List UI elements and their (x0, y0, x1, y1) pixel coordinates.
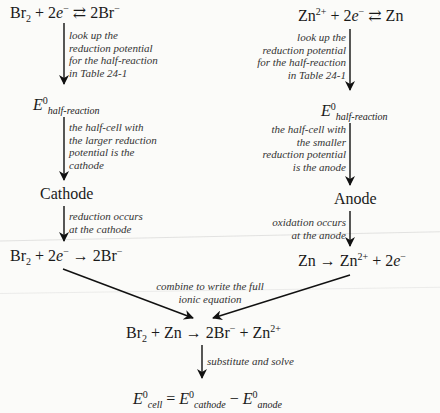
note-line: reduction occurs (69, 210, 143, 223)
potential-symbol: E (321, 102, 331, 119)
charge: 2+ (358, 251, 369, 262)
note-line: is the anode (262, 161, 346, 174)
coefficient: + 2 (31, 247, 56, 264)
species: + Zn (147, 324, 182, 341)
species: Br (10, 4, 26, 21)
coefficient: + 2 (368, 252, 393, 269)
left-note-reduction: reduction occurs at the cathode (69, 210, 143, 235)
note-line: reduction potential (257, 44, 346, 57)
note-line: in Table 24-1 (69, 67, 158, 80)
note-line: the larger reduction (69, 134, 157, 147)
note-line: in Table 24-1 (257, 69, 346, 82)
cathode-label: Cathode (40, 185, 93, 203)
right-half-reaction: Zn2+ + 2e− ⇄ Zn (298, 7, 403, 25)
note-line: reduction potential (262, 148, 346, 161)
note-line: at the cathode (69, 223, 143, 236)
equilibrium-arrow: ⇄ (69, 4, 90, 21)
species: Zn (386, 7, 404, 24)
note-line: the smaller (262, 136, 346, 149)
reaction-arrow: → (316, 252, 340, 269)
left-half-reaction: Br2 + 2e− ⇄ 2Br− (10, 4, 120, 22)
coefficient: + 2 (326, 7, 351, 24)
subscript: cathode (194, 399, 226, 410)
left-note-cathode-rule: the half-cell with the larger reduction … (69, 121, 157, 171)
note-line: the half-cell with (262, 123, 346, 136)
note-line: at the anode (272, 229, 346, 242)
note-line: look up the (257, 31, 346, 44)
species: Br (10, 247, 26, 264)
subscript: cell (148, 399, 162, 410)
minus: − (226, 390, 243, 407)
note-line: for the half-reaction (257, 56, 346, 69)
solve-note: substitute and solve (207, 355, 294, 368)
species: 2Br (206, 324, 230, 341)
note-line: potential is the (69, 146, 157, 159)
potential-symbol: E (133, 390, 143, 407)
species: Zn (298, 252, 316, 269)
note-line: for the half-reaction (69, 54, 158, 67)
left-note-lookup: look up the reduction potential for the … (69, 29, 158, 79)
right-note-oxidation: oxidation occurs at the anode (272, 216, 346, 241)
subscript: anode (258, 399, 282, 410)
subscript: half-reaction (336, 111, 388, 122)
electron: e (351, 7, 358, 24)
species: + Zn (235, 324, 270, 341)
left-potential: E0half-reaction (33, 92, 100, 120)
subscript: half-reaction (48, 105, 100, 116)
note-line: oxidation occurs (272, 216, 346, 229)
species: 2Br (90, 4, 114, 21)
equilibrium-arrow: ⇄ (364, 7, 385, 24)
anode-reaction: Zn → Zn2+ + 2e− (298, 252, 406, 270)
right-note-lookup: look up the reduction potential for the … (257, 31, 346, 81)
combine-note: combine to write the full ionic equation (150, 280, 270, 305)
cathode-reaction: Br2 + 2e− → 2Br− (10, 247, 122, 265)
species: 2Br (93, 247, 117, 264)
species: Br (126, 324, 142, 341)
charge: 2+ (316, 6, 327, 17)
anode-label: Anode (334, 190, 377, 208)
equals: = (162, 390, 179, 407)
right-note-anode-rule: the half-cell with the smaller reduction… (262, 123, 346, 173)
charge: − (117, 246, 123, 257)
note-line: cathode (69, 159, 157, 172)
note-line: combine to write the full (150, 280, 270, 293)
full-ionic-equation: Br2 + Zn → 2Br− + Zn2+ (126, 324, 281, 342)
reaction-arrow: → (69, 247, 93, 264)
reaction-arrow: → (182, 324, 206, 341)
charge: − (400, 251, 406, 262)
note-line: ionic equation (150, 293, 270, 306)
potential-symbol: E (179, 390, 189, 407)
right-potential: E0half-reaction (321, 98, 388, 126)
charge: 2+ (270, 323, 281, 334)
species: Zn (340, 252, 358, 269)
potential-symbol: E (243, 390, 253, 407)
coefficient: + 2 (31, 4, 56, 21)
cell-potential-equation: E0cell = E0cathode − E0anode (133, 386, 282, 413)
charge: − (114, 3, 120, 14)
potential-symbol: E (33, 96, 43, 113)
note-line: look up the (69, 29, 158, 42)
note-line: the half-cell with (69, 121, 157, 134)
species: Zn (298, 7, 316, 24)
note-line: reduction potential (69, 42, 158, 55)
